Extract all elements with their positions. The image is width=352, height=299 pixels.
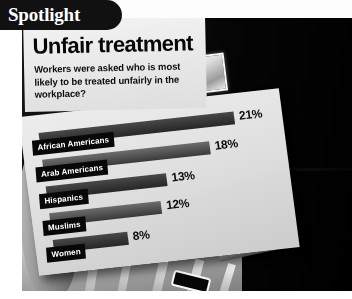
bar-value-label: 13% xyxy=(171,168,196,184)
subhead-text: Workers were asked who is most likely to… xyxy=(34,60,203,101)
bar-category-text: Muslims xyxy=(48,220,81,233)
bottom-margin xyxy=(0,291,352,299)
bar-value-label: 12% xyxy=(165,196,190,212)
spotlight-figure: African Americans21%Arab Americans18%His… xyxy=(0,0,352,299)
spotlight-badge: Spotlight xyxy=(0,0,122,30)
bar-value-label: 8% xyxy=(132,227,150,243)
bar-chart: African Americans21%Arab Americans18%His… xyxy=(22,88,300,275)
chart-board: African Americans21%Arab Americans18%His… xyxy=(22,88,300,275)
bar-category-label: Women xyxy=(46,243,86,262)
bar-value-label: 21% xyxy=(238,106,263,122)
bar-category-text: Women xyxy=(51,247,81,259)
left-margin xyxy=(0,0,22,299)
bar-category-label: Muslims xyxy=(42,216,86,236)
bar-value-label: 18% xyxy=(214,136,239,152)
bar-category-text: Hispanics xyxy=(44,192,83,205)
page-title: Unfair treatment xyxy=(32,30,193,59)
photograph: African Americans21%Arab Americans18%His… xyxy=(22,18,352,291)
headline-panel: Unfair treatment Workers were asked who … xyxy=(23,18,207,112)
bar-category-text: Arab Americans xyxy=(41,163,104,179)
spotlight-badge-label: Spotlight xyxy=(8,4,80,26)
